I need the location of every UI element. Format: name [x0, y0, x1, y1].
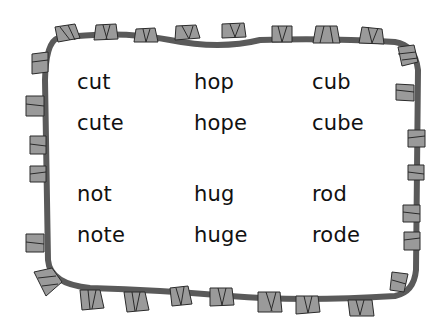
word-not: not: [77, 184, 112, 205]
word-huge: huge: [194, 225, 248, 246]
scalloped-border-frame: [0, 0, 444, 336]
word-hope: hope: [194, 113, 247, 134]
word-cute: cute: [77, 113, 124, 134]
word-cut: cut: [77, 72, 111, 93]
word-rode: rode: [312, 225, 360, 246]
word-rod: rod: [312, 184, 347, 205]
word-hug: hug: [194, 184, 235, 205]
word-cub: cub: [312, 72, 351, 93]
word-cube: cube: [312, 113, 364, 134]
word-hop: hop: [194, 72, 234, 93]
word-note: note: [77, 225, 125, 246]
